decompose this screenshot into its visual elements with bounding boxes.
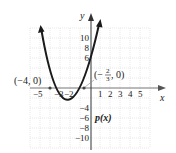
root-point-left xyxy=(48,86,51,89)
tick-x-m5: −5 xyxy=(33,89,43,99)
tick-y-m10: −10 xyxy=(75,133,90,143)
tick-y-m4: −4 xyxy=(79,103,89,113)
tick-x-5: 5 xyxy=(138,89,143,99)
tick-x-1: 1 xyxy=(98,89,103,99)
tick-y-m8: −8 xyxy=(79,123,89,133)
svg-text:(−: (− xyxy=(94,69,103,81)
curve-arrow-left-icon xyxy=(38,25,45,33)
tick-y-10: 10 xyxy=(80,33,90,43)
fraction-numerator: 2 xyxy=(106,67,110,75)
graph-canvas: −5 −3 −2 1 2 3 4 5 10 8 6 −4 −6 −8 −10 y… xyxy=(0,0,176,153)
x-axis-arrow-icon xyxy=(158,85,166,91)
svg-text:, 0): , 0) xyxy=(111,69,124,81)
tick-y-m6: −6 xyxy=(79,113,89,123)
x-axis-label: x xyxy=(159,92,165,103)
tick-y-8: 8 xyxy=(85,43,90,53)
tick-x-2: 2 xyxy=(108,89,113,99)
fraction-denominator: 3 xyxy=(106,75,110,83)
point-label-left: (−4, 0) xyxy=(14,75,41,87)
y-axis-arrow-icon xyxy=(88,13,94,21)
tick-y-6: 6 xyxy=(85,53,90,63)
tick-x-m3: −3 xyxy=(54,89,64,99)
tick-x-3: 3 xyxy=(118,89,123,99)
y-axis-label: y xyxy=(79,10,85,21)
tick-x-m2: −2 xyxy=(64,89,74,99)
function-label: p(x) xyxy=(94,112,112,124)
annotation-leader-line xyxy=(85,80,94,87)
curve-arrow-right-icon xyxy=(96,19,103,28)
tick-x-4: 4 xyxy=(128,89,133,99)
